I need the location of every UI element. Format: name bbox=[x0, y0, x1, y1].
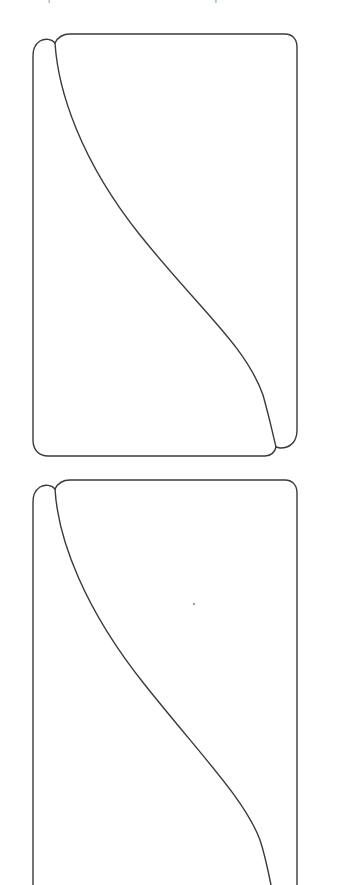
diagram-canvas: ɿ ɿ Upper figure Lower figure (cropped a… bbox=[0, 0, 344, 885]
top-right-panel-outline bbox=[55, 34, 297, 448]
bottom-right-panel-outline bbox=[55, 480, 297, 885]
top-s-curve-divider bbox=[55, 43, 276, 447]
figure-bottom bbox=[33, 480, 297, 885]
bottom-s-curve-divider bbox=[55, 489, 271, 885]
figure-top bbox=[33, 34, 297, 456]
diagram-svg bbox=[0, 0, 344, 885]
bottom-left-panel-outline bbox=[33, 485, 55, 885]
top-left-panel-outline bbox=[33, 39, 276, 456]
stray-mark bbox=[193, 603, 195, 605]
